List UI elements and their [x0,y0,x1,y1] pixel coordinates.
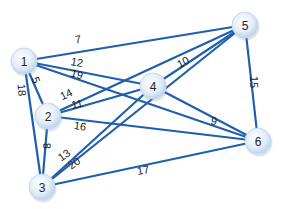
graph-node-4: 4 [140,73,168,102]
edge-weight-label: 17 [136,163,150,177]
weighted-graph-diagram: 71219518141116813201710915 123456 [0,0,285,209]
edge-4-6 [153,86,258,141]
edge-weight-label: 15 [248,76,260,88]
edge-weight-label: 16 [73,119,87,133]
graph-node-1: 1 [11,48,39,77]
node-label: 4 [150,80,157,94]
node-label: 2 [45,110,52,124]
edge-weight-label: 7 [74,33,82,46]
graph-node-6: 6 [245,128,273,157]
edge-weight-label: 19 [69,66,84,81]
edge-1-5 [24,25,245,61]
node-label: 6 [255,135,262,149]
graph-node-2: 2 [35,103,63,132]
edge-4-5 [153,25,245,86]
edge-layer [24,25,258,187]
node-label: 3 [39,181,46,195]
edge-weight-label: 8 [41,143,53,150]
edge-weight-label: 11 [70,97,84,111]
graph-node-5: 5 [232,12,260,41]
edge-weight-label: 18 [15,83,28,96]
node-label: 1 [21,55,28,69]
node-label: 5 [242,19,249,33]
